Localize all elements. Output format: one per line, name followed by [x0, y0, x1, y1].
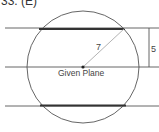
sphere-plane-diagram: 7 5 Given Plane [0, 0, 159, 132]
given-plane-label: Given Plane [58, 68, 105, 78]
distance-label: 5 [151, 44, 156, 54]
radius-label: 7 [96, 42, 101, 52]
radius-line [83, 28, 125, 67]
